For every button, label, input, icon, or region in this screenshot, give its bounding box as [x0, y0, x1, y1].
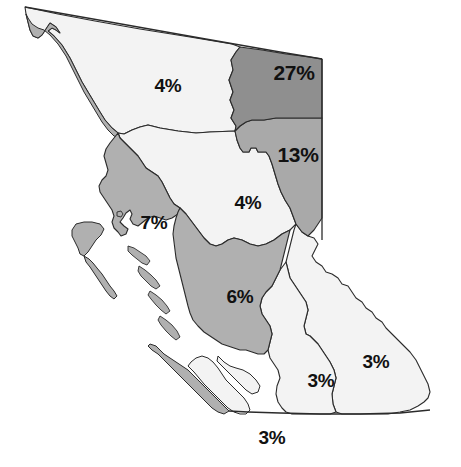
region-label-vancouver-island-south: 3%: [259, 428, 286, 447]
region-shape-offshore-islet[interactable]: [117, 211, 123, 217]
region-shape-haida-gwaii-south[interactable]: [84, 256, 117, 299]
region-label-central-coast: 6%: [227, 287, 254, 306]
region-label-okanagan: 3%: [308, 371, 335, 390]
region-shape-coastal-islands[interactable]: [128, 246, 180, 340]
region-label-peace-river: 13%: [277, 144, 318, 165]
region-label-north-coast: 7%: [141, 213, 168, 232]
region-label-northwest: 4%: [155, 76, 182, 95]
region-shape-haida-gwaii-north[interactable]: [72, 222, 104, 256]
bc-choropleth-map: 4% 27% 13% 4% 7% 6% 3% 3% 3%: [0, 0, 461, 467]
region-label-kootenay: 3%: [363, 352, 390, 371]
region-label-northeast: 27%: [273, 62, 314, 83]
map-svg: [0, 0, 461, 467]
region-label-central-interior: 4%: [235, 193, 262, 212]
